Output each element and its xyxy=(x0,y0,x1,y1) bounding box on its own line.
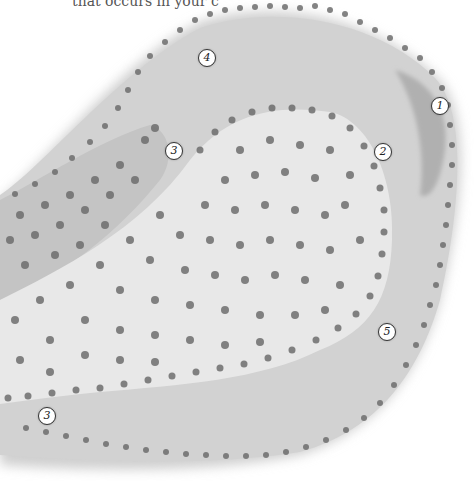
region-label-2: 2 xyxy=(374,143,392,161)
region-label-5: 5 xyxy=(378,323,396,341)
channel-diagram xyxy=(0,0,474,481)
region-label-3-upper: 3 xyxy=(165,142,183,160)
region-label-1: 1 xyxy=(431,97,449,115)
region-label-4: 4 xyxy=(198,49,216,67)
region-label-3-lower: 3 xyxy=(38,407,56,425)
